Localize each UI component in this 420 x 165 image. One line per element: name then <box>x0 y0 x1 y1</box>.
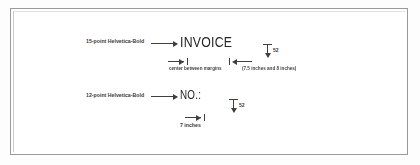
no-leading-value: 52 <box>239 103 245 108</box>
invoice-leading-stem <box>267 44 268 57</box>
invoice-spec-label: 15-point Helvetica-Bold <box>86 39 144 44</box>
no-leader-arrow-icon <box>151 96 177 97</box>
dim-tick <box>204 114 205 121</box>
invoice-right-dimension-icon <box>229 58 253 65</box>
dim-rule <box>236 61 252 62</box>
typography-spec-figure: 15-point Helvetica-Bold INVOICE 52 cente… <box>0 0 420 165</box>
center-margin-range-caption: (7.5 inches and 8 inches) <box>242 67 296 72</box>
dim-tick <box>229 58 230 65</box>
dim-tick <box>187 58 188 65</box>
invoice-leading-value: 52 <box>273 48 279 53</box>
dim-arrowhead-right-icon <box>196 115 201 121</box>
no-specimen-text: NO.: <box>180 89 201 101</box>
figure-frame <box>10 8 408 155</box>
invoice-left-dimension-icon <box>168 58 189 65</box>
no-offset-caption: 7 inches <box>180 123 201 128</box>
dim-arrowhead-right-icon <box>179 59 184 65</box>
center-between-margins-caption: center between margins <box>169 67 222 72</box>
no-offset-dimension-icon <box>185 114 207 121</box>
invoice-leader-arrow-icon <box>151 43 177 44</box>
no-spec-label: 12-point Helvetica-Bold <box>86 93 144 98</box>
invoice-specimen-text: INVOICE <box>180 34 232 49</box>
no-leading-stem <box>233 99 234 112</box>
